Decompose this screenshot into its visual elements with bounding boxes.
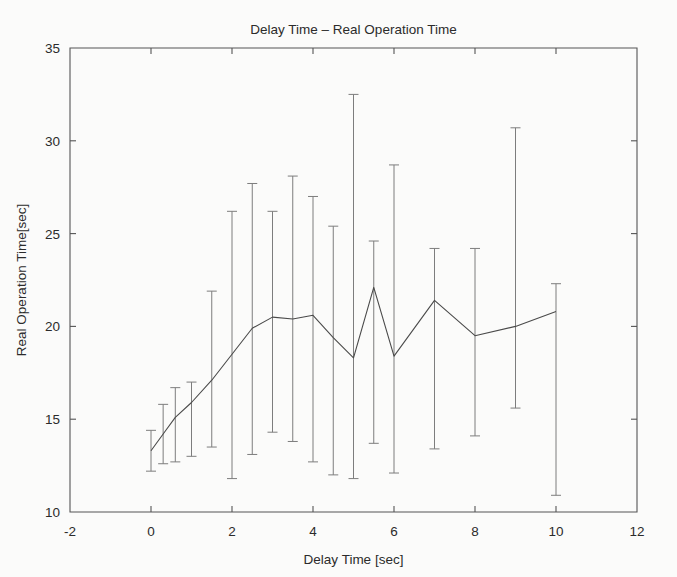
error-bar	[146, 430, 156, 471]
error-bar	[288, 176, 298, 441]
error-bar	[328, 226, 338, 475]
chart-ylabel: Real Operation Time[sec]	[14, 204, 29, 356]
x-tick-label: 10	[548, 524, 563, 539]
error-bar	[207, 291, 217, 447]
x-tick-label: 0	[147, 524, 155, 539]
error-bar	[511, 128, 521, 408]
y-tick-label: 25	[45, 227, 60, 242]
y-tick-label: 35	[45, 41, 60, 56]
error-bar	[268, 211, 278, 432]
chart-canvas: -2024681012101520253035Delay Time – Real…	[0, 0, 677, 577]
x-tick-label: -2	[64, 524, 76, 539]
chart-xlabel: Delay Time [sec]	[304, 552, 404, 567]
error-bar	[430, 248, 440, 448]
error-bar	[470, 248, 480, 435]
chart-figure: -2024681012101520253035Delay Time – Real…	[0, 0, 677, 577]
error-bar	[187, 382, 197, 456]
y-tick-label: 15	[45, 412, 60, 427]
x-tick-label: 6	[390, 524, 398, 539]
figure-page: -2024681012101520253035Delay Time – Real…	[0, 0, 677, 577]
error-bar	[349, 94, 359, 478]
y-tick-label: 30	[45, 134, 60, 149]
x-tick-label: 12	[629, 524, 644, 539]
y-tick-label: 20	[45, 319, 60, 334]
error-bar	[247, 183, 257, 454]
error-bar	[308, 196, 318, 461]
error-bar	[170, 388, 180, 462]
error-bar	[227, 211, 237, 478]
y-tick-label: 10	[45, 505, 60, 520]
x-tick-label: 4	[309, 524, 317, 539]
error-bar	[551, 284, 561, 496]
error-bar	[369, 241, 379, 443]
chart-title: Delay Time – Real Operation Time	[250, 22, 456, 37]
x-tick-label: 8	[471, 524, 479, 539]
error-bar	[389, 165, 399, 473]
x-tick-label: 2	[228, 524, 236, 539]
